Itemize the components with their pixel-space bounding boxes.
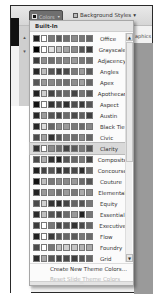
color-swatch — [79, 145, 86, 152]
color-swatch — [79, 255, 86, 262]
theme-row[interactable]: Grayscale — [30, 44, 126, 55]
color-swatch — [33, 35, 40, 42]
theme-row[interactable]: Aspect — [30, 99, 126, 110]
background-styles-button[interactable]: Background Styles ▾ — [73, 12, 136, 18]
theme-row[interactable]: Concourse — [30, 165, 126, 176]
theme-swatches — [33, 90, 93, 97]
theme-row[interactable]: Equity — [30, 198, 126, 209]
theme-swatches — [33, 57, 93, 64]
theme-row[interactable]: Civic — [30, 132, 126, 143]
theme-swatches — [33, 255, 95, 262]
color-swatch — [48, 134, 55, 141]
color-swatch — [86, 46, 93, 53]
theme-name: Office — [100, 36, 116, 42]
color-swatch — [79, 233, 86, 240]
color-swatch — [48, 123, 55, 130]
color-swatch — [48, 101, 55, 108]
resize-grip[interactable]: ···· — [30, 281, 133, 285]
create-new-theme-colors[interactable]: Create New Theme Colors... — [30, 264, 133, 274]
theme-row[interactable]: Composite — [30, 154, 126, 165]
color-swatch-icon — [32, 14, 37, 19]
color-swatch — [63, 90, 70, 97]
color-swatch — [56, 90, 63, 97]
color-swatch — [33, 101, 40, 108]
color-swatch — [63, 112, 70, 119]
color-swatch — [79, 35, 86, 42]
theme-name: Couture — [100, 179, 122, 185]
color-swatch — [33, 134, 40, 141]
theme-row[interactable]: Essential — [30, 209, 126, 220]
color-swatch — [79, 68, 86, 75]
color-swatch — [71, 178, 78, 185]
color-swatch — [63, 123, 70, 130]
theme-row[interactable]: Apex — [30, 77, 126, 88]
theme-swatches — [33, 79, 95, 86]
theme-swatches — [33, 200, 95, 207]
color-swatch — [71, 233, 78, 240]
color-swatch — [41, 90, 48, 97]
color-swatch — [63, 200, 70, 207]
scroll-down-icon[interactable]: ▼ — [126, 254, 133, 262]
color-swatch — [79, 90, 86, 97]
theme-swatches — [33, 35, 95, 42]
color-swatch — [86, 57, 93, 64]
color-swatch — [48, 156, 55, 163]
chevron-down-icon: ▾ — [133, 12, 136, 18]
theme-row[interactable]: Executive — [30, 220, 126, 231]
color-swatch — [71, 222, 78, 229]
color-swatch — [86, 222, 93, 229]
graphics-label: aphics — [135, 33, 151, 39]
color-swatch — [86, 123, 93, 130]
color-swatch — [33, 211, 40, 218]
theme-row[interactable]: Apothecary — [30, 88, 126, 99]
theme-swatches — [33, 46, 94, 53]
background-styles-icon — [73, 13, 78, 18]
color-swatch — [48, 255, 55, 262]
color-swatch — [71, 90, 78, 97]
theme-name: Composite — [98, 157, 127, 163]
theme-row[interactable]: Couture — [30, 176, 126, 187]
color-swatch — [86, 156, 93, 163]
color-swatch — [41, 101, 48, 108]
theme-row[interactable]: Office — [30, 33, 126, 44]
color-swatch — [48, 90, 55, 97]
theme-row[interactable]: Black Tie — [30, 121, 126, 132]
scrollbar[interactable]: ▲ ▼ — [125, 33, 132, 262]
theme-row[interactable]: Flow — [30, 231, 126, 242]
theme-row[interactable]: Foundry — [30, 242, 126, 253]
theme-swatches — [33, 134, 95, 141]
color-swatch — [48, 79, 55, 86]
color-swatch — [48, 178, 55, 185]
background-styles-label: Background Styles — [80, 12, 131, 18]
scroll-up-icon[interactable]: ▲ — [126, 33, 133, 41]
color-swatch — [41, 222, 48, 229]
color-swatch — [56, 46, 63, 53]
color-swatch — [48, 200, 55, 207]
theme-name: Austin — [100, 113, 117, 119]
color-swatch — [86, 35, 93, 42]
color-swatch — [79, 167, 86, 174]
color-swatch — [56, 57, 63, 64]
color-swatch — [56, 189, 63, 196]
color-swatch — [56, 167, 63, 174]
color-swatch — [63, 233, 70, 240]
color-swatch — [71, 211, 78, 218]
color-swatch — [71, 79, 78, 86]
theme-row[interactable]: Austin — [30, 110, 126, 121]
color-swatch — [63, 134, 70, 141]
color-swatch — [71, 123, 78, 130]
color-swatch — [79, 101, 86, 108]
theme-row[interactable]: Clarity — [30, 143, 126, 154]
color-swatch — [86, 145, 93, 152]
color-swatch — [56, 68, 63, 75]
color-swatch — [71, 112, 78, 119]
color-swatch — [79, 156, 86, 163]
color-swatch — [41, 79, 48, 86]
theme-row[interactable]: Angles — [30, 66, 126, 77]
theme-row[interactable]: Elemental — [30, 187, 126, 198]
theme-row[interactable]: Adjacency — [30, 55, 126, 66]
scroll-thumb[interactable] — [126, 42, 133, 162]
theme-name: Grayscale — [99, 47, 126, 53]
color-swatch — [33, 167, 40, 174]
theme-name: Essential — [100, 212, 125, 218]
